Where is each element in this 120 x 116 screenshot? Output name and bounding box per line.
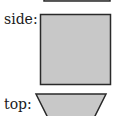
top-view-trapezoid [36,94,106,116]
side-view-label: side: [4,12,38,26]
top-view-label: top: [4,97,32,111]
side-view-square [41,15,111,85]
previous-view-shape-edge [44,0,110,1]
